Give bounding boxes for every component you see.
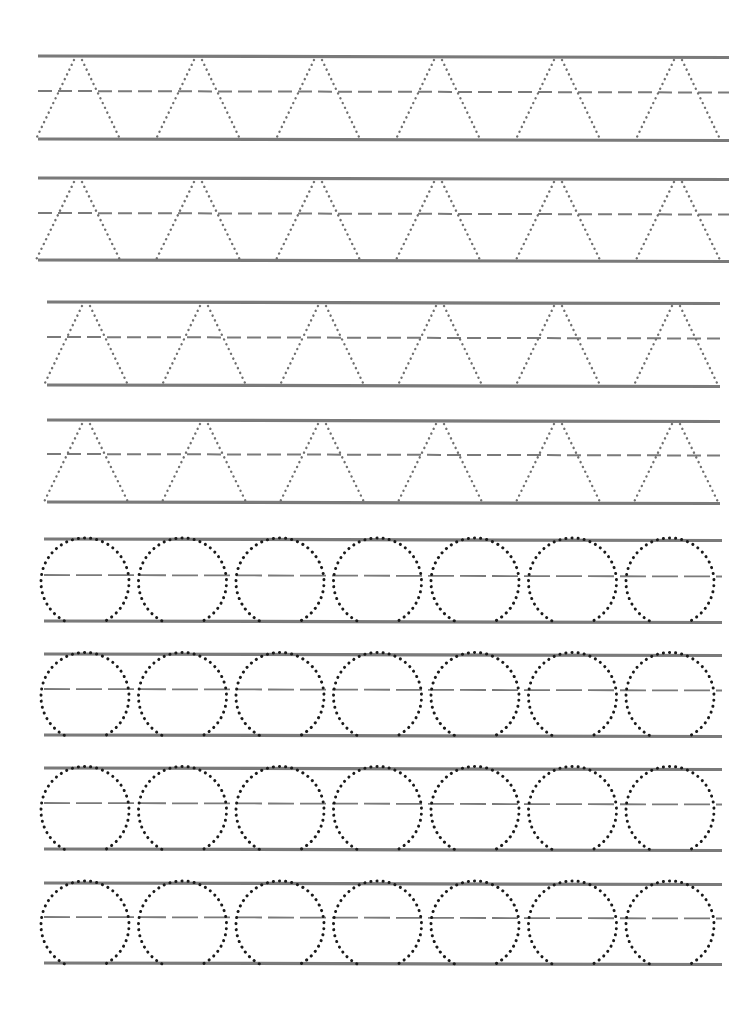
bottom-guide-line (38, 260, 729, 262)
tracing-worksheet (0, 0, 729, 1021)
top-guide-line (38, 178, 729, 180)
bottom-guide-line (44, 963, 722, 965)
top-guide-line (38, 56, 729, 58)
top-guide-line (44, 883, 722, 885)
bottom-guide-line (47, 502, 720, 504)
bottom-guide-line (44, 849, 722, 851)
bottom-guide-line (38, 139, 729, 141)
bottom-guide-line (44, 621, 722, 623)
top-guide-line (47, 420, 720, 422)
page-background (0, 0, 729, 1021)
bottom-guide-line (47, 385, 720, 387)
bottom-guide-line (44, 735, 722, 737)
top-guide-line (47, 302, 720, 304)
